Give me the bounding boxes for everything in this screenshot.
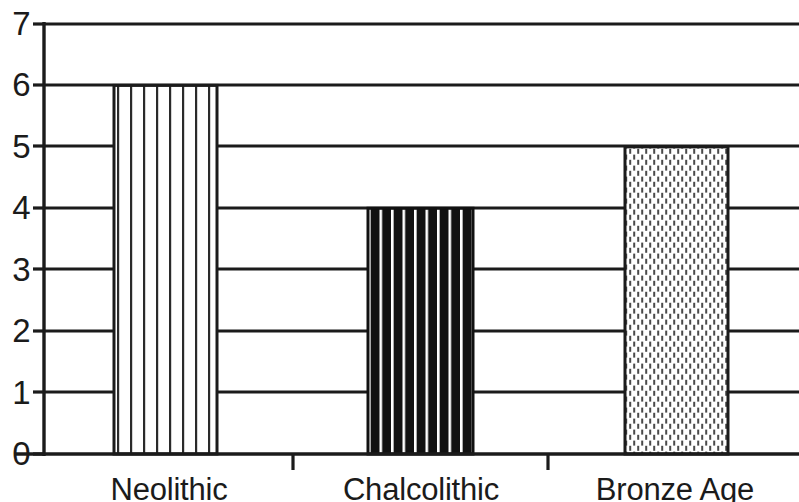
plot-area: 7 6 5 4 3 2 1 0 Neolithic Chalcolithic B… <box>0 0 799 502</box>
bar-chalcolithic <box>368 208 473 454</box>
y-tick-label-2: 2 <box>0 314 30 347</box>
bar-neolithic <box>114 85 217 454</box>
y-tick-label-0: 0 <box>0 437 30 470</box>
x-category-label-chalcolithic: Chalcolithic <box>296 472 546 502</box>
chart-canvas <box>0 0 799 502</box>
y-tick-label-4: 4 <box>0 191 30 224</box>
y-tick-label-5: 5 <box>0 130 30 163</box>
y-tick-label-7: 7 <box>0 7 30 40</box>
bar-chart-figure: 7 6 5 4 3 2 1 0 Neolithic Chalcolithic B… <box>0 0 799 502</box>
y-tick-label-3: 3 <box>0 253 30 286</box>
bars-group <box>114 85 728 454</box>
x-category-label-bronze-age: Bronze Age <box>551 472 799 502</box>
x-category-label-neolithic: Neolithic <box>44 472 294 502</box>
x-axis-ticks <box>293 454 548 470</box>
y-tick-label-6: 6 <box>0 68 30 101</box>
bar-bronze-age <box>625 147 728 454</box>
y-tick-label-1: 1 <box>0 376 30 409</box>
